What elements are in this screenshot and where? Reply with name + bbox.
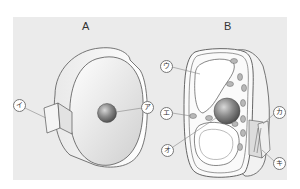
label-e-chloroplast: エ bbox=[160, 107, 173, 120]
animal-cell bbox=[25, 48, 147, 167]
nucleus-b bbox=[214, 98, 240, 124]
plant-cell bbox=[172, 49, 274, 178]
label-o-nucleus: オ bbox=[161, 144, 174, 157]
cell-diagram bbox=[0, 0, 300, 189]
panel-title-b: B bbox=[224, 20, 231, 32]
label-ki-cell-wall: キ bbox=[273, 157, 286, 170]
label-a-nucleus: ア bbox=[141, 101, 154, 114]
label-i-membrane: イ bbox=[13, 99, 26, 112]
panel-title-a: A bbox=[82, 20, 89, 32]
label-ka-membrane: カ bbox=[273, 106, 286, 119]
nucleus-a bbox=[98, 104, 117, 123]
label-u-vacuole: ウ bbox=[160, 60, 173, 73]
